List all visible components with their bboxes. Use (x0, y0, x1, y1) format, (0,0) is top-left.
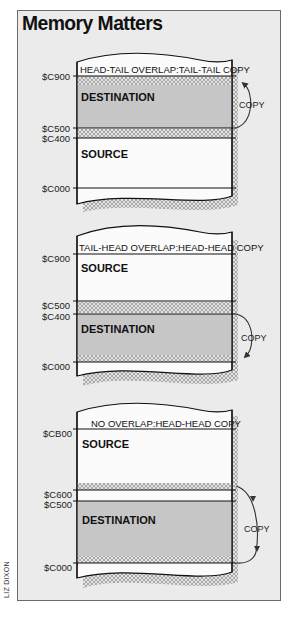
section-no-overlap: NO OVERLAP:HEAD-HEAD COPY $CB00 $C600 $C… (43, 403, 270, 588)
block-label: SOURCE (82, 438, 129, 450)
address-label: $C400 (42, 133, 70, 144)
section-tail-head-overlap: TAIL-HEAD OVERLAP:HEAD-HEAD COPY $C900 $… (42, 226, 267, 386)
address-label: $C900 (42, 253, 70, 264)
section-head-tail-overlap: HEAD-TAIL OVERLAP:TAIL-TAIL COPY $C900 $… (42, 53, 265, 212)
address-label: $C500 (44, 499, 72, 510)
address-label: $C000 (42, 183, 70, 194)
address-label: $CB00 (43, 428, 72, 439)
address-label: $C000 (42, 361, 70, 372)
block-label: SOURCE (81, 262, 128, 274)
overlap-hatch (78, 77, 232, 85)
copy-label: COPY (244, 524, 270, 534)
section-caption: NO OVERLAP:HEAD-HEAD COPY (91, 418, 242, 429)
block-label: DESTINATION (81, 323, 155, 335)
address-label: $C500 (42, 300, 70, 311)
section-caption: HEAD-TAIL OVERLAP:TAIL-TAIL COPY (80, 64, 250, 75)
destination-block (77, 501, 232, 563)
copy-label: COPY (241, 333, 267, 343)
address-label: $C000 (44, 562, 72, 573)
address-label: $C400 (42, 311, 70, 322)
section-caption: TAIL-HEAD OVERLAP:HEAD-HEAD COPY (79, 242, 264, 253)
copy-label: COPY (239, 100, 265, 110)
overlap-hatch (78, 355, 232, 362)
gap-hatch (78, 129, 232, 138)
address-label: $C900 (42, 71, 70, 82)
block-label: SOURCE (81, 148, 128, 160)
block-label: DESTINATION (81, 91, 155, 103)
source-tail-hatch (78, 483, 232, 490)
destination-block (77, 314, 232, 362)
destination-tail-hatch (78, 556, 232, 563)
arrowhead-icon (254, 546, 260, 552)
memory-diagram: HEAD-TAIL OVERLAP:TAIL-TAIL COPY $C900 $… (0, 0, 292, 620)
block-label: DESTINATION (82, 514, 156, 526)
overlap-hatch (78, 302, 232, 313)
